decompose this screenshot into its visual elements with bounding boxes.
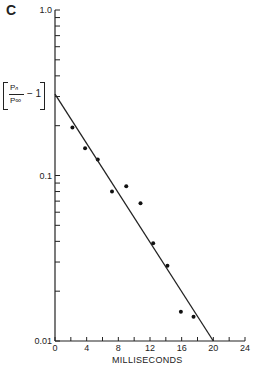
data-point (192, 315, 196, 319)
data-point (139, 201, 143, 205)
x-axis-label: MILLISECONDS (112, 355, 183, 365)
x-tick-label: 12 (145, 343, 155, 353)
x-tick-label: 8 (116, 343, 121, 353)
y-tick-label: 1.0 (39, 5, 52, 15)
x-tick-label: 20 (208, 343, 218, 353)
data-point (70, 125, 74, 129)
data-point (179, 310, 183, 314)
y-tick-label: 0.01 (34, 336, 52, 346)
fit-line (55, 94, 213, 341)
x-tick-label: 16 (177, 343, 187, 353)
y-tick-label: 0.1 (39, 171, 52, 181)
chart-plot: 048121620240.010.11.0 (0, 0, 253, 374)
data-point (83, 146, 87, 150)
x-tick-label: 24 (240, 343, 250, 353)
x-tick-label: 0 (52, 343, 57, 353)
x-tick-label: 4 (84, 343, 89, 353)
data-point (124, 184, 128, 188)
data-point (110, 190, 114, 194)
